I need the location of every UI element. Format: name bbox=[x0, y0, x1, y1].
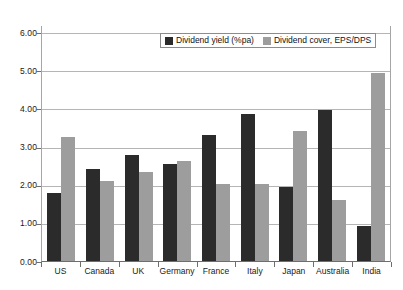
x-tick-label-india: India bbox=[352, 267, 391, 276]
bar-group bbox=[235, 26, 274, 261]
bar-group bbox=[119, 26, 158, 261]
bar-group bbox=[351, 26, 390, 261]
x-tick-label-japan: Japan bbox=[274, 267, 313, 276]
chart-legend: Dividend yield (%pa)Dividend cover, EPS/… bbox=[160, 33, 376, 48]
bar bbox=[202, 135, 216, 261]
bar bbox=[177, 161, 191, 261]
bar-group bbox=[313, 26, 352, 261]
x-tick-label-germany: Germany bbox=[158, 267, 197, 276]
bar bbox=[371, 73, 385, 261]
x-tick-label-canada: Canada bbox=[80, 267, 119, 276]
bar-group bbox=[274, 26, 313, 261]
y-tick-label: 0.00 bbox=[3, 258, 37, 267]
legend-label: Dividend yield (%pa) bbox=[176, 36, 254, 45]
x-tick-label-uk: UK bbox=[119, 267, 158, 276]
bar bbox=[163, 164, 177, 261]
legend-label: Dividend cover, EPS/DPS bbox=[274, 36, 371, 45]
y-tick-label: 1.00 bbox=[3, 219, 37, 228]
bar-group bbox=[81, 26, 120, 261]
bar bbox=[139, 172, 153, 261]
legend-swatch-icon bbox=[263, 37, 271, 45]
bar bbox=[86, 169, 100, 261]
plot-area bbox=[41, 26, 391, 262]
bar bbox=[100, 181, 114, 261]
y-tick-label: 4.00 bbox=[3, 105, 37, 114]
legend-swatch-icon bbox=[165, 37, 173, 45]
legend-entry: Dividend cover, EPS/DPS bbox=[263, 36, 371, 45]
bar-group bbox=[42, 26, 81, 261]
x-tick-label-us: US bbox=[41, 267, 80, 276]
bar-group bbox=[197, 26, 236, 261]
bar bbox=[332, 200, 346, 261]
bar bbox=[125, 155, 139, 261]
bar bbox=[357, 226, 371, 261]
y-tick-label: 3.00 bbox=[3, 143, 37, 152]
bar bbox=[293, 131, 307, 261]
y-tick-label: 5.00 bbox=[3, 67, 37, 76]
bar bbox=[241, 114, 255, 261]
legend-entry: Dividend yield (%pa) bbox=[165, 36, 254, 45]
bar-chart: 6.005.004.003.002.001.000.00 USCanadaUKG… bbox=[0, 0, 403, 290]
bar bbox=[216, 184, 230, 261]
x-tick-label-italy: Italy bbox=[235, 267, 274, 276]
bar bbox=[255, 184, 269, 261]
x-tick-label-france: France bbox=[197, 267, 236, 276]
bar-group bbox=[158, 26, 197, 261]
x-tick-label-australia: Australia bbox=[313, 267, 352, 276]
x-tick-mark bbox=[391, 262, 392, 267]
bar bbox=[47, 193, 61, 261]
bar bbox=[318, 110, 332, 261]
y-tick-label: 2.00 bbox=[3, 181, 37, 190]
bar bbox=[279, 187, 293, 261]
y-tick-label: 6.00 bbox=[3, 29, 37, 38]
bar bbox=[61, 137, 75, 261]
bars-layer bbox=[42, 26, 390, 261]
